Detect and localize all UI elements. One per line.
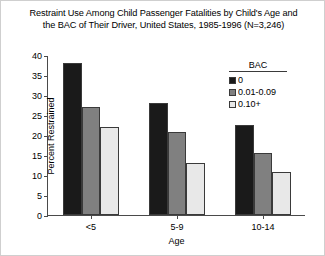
- chart-title-line-1: Restraint Use Among Child Passenger Fata…: [11, 7, 316, 19]
- y-axis-tick-label: 20: [24, 132, 42, 141]
- legend-item: 0.01-0.09: [229, 86, 287, 98]
- bar: [100, 127, 119, 215]
- bar: [63, 63, 82, 215]
- legend-item-label: 0: [238, 74, 243, 86]
- legend-item: 0: [229, 74, 287, 86]
- bar: [149, 103, 168, 215]
- y-axis-tick-label: 15: [24, 152, 42, 161]
- legend-item: 0.10+: [229, 98, 287, 110]
- bar: [254, 153, 273, 215]
- legend-rows: 00.01-0.090.10+: [229, 74, 287, 110]
- chart-title: Restraint Use Among Child Passenger Fata…: [11, 7, 316, 31]
- legend-swatch-icon: [229, 77, 236, 84]
- legend-swatch-icon: [229, 101, 236, 108]
- x-axis-tick-label: 5-9: [142, 222, 212, 232]
- legend-swatch-icon: [229, 89, 236, 96]
- bar: [235, 125, 254, 215]
- bar: [186, 163, 205, 215]
- x-axis-tick-mark: [263, 215, 264, 219]
- chart-title-line-2: the BAC of Their Driver, United States, …: [11, 19, 316, 31]
- y-axis-tick-mark: [44, 216, 48, 217]
- x-axis-tick-label: <5: [56, 222, 126, 232]
- legend-item-label: 0.10+: [238, 98, 261, 110]
- bar: [272, 172, 291, 215]
- bar: [168, 132, 187, 215]
- bar: [82, 107, 101, 215]
- legend-title: BAC: [229, 59, 287, 72]
- chart-figure: Restraint Use Among Child Passenger Fata…: [0, 0, 325, 256]
- x-axis-tick-label: 10-14: [228, 222, 298, 232]
- x-axis-tick-mark: [177, 215, 178, 219]
- y-axis-tick-label: 5: [24, 192, 42, 201]
- y-axis-tick-label: 25: [24, 112, 42, 121]
- y-axis-tick-label: 0: [24, 212, 42, 221]
- x-axis-label: Age: [48, 236, 305, 246]
- legend-item-label: 0.01-0.09: [238, 86, 276, 98]
- x-axis-tick-mark: [91, 215, 92, 219]
- legend: BAC 00.01-0.090.10+: [229, 59, 287, 110]
- y-axis-tick-label: 35: [24, 72, 42, 81]
- y-axis-tick-label: 10: [24, 172, 42, 181]
- y-axis-tick-label: 30: [24, 92, 42, 101]
- y-axis-tick-label: 40: [24, 52, 42, 61]
